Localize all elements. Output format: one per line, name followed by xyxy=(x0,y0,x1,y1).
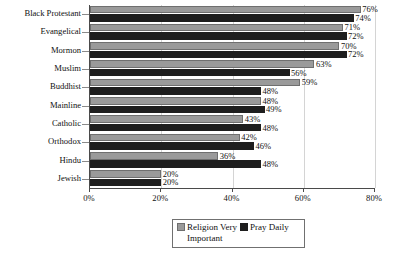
x-axis-label: 60% xyxy=(295,193,311,203)
bar-0 xyxy=(90,97,261,105)
bar-1 xyxy=(90,160,261,168)
gridline xyxy=(375,5,376,188)
bar-value-label: 63% xyxy=(316,60,332,69)
category-tick xyxy=(82,69,89,70)
bar-1 xyxy=(90,14,354,22)
x-axis-tick xyxy=(232,188,233,192)
bar-group: 20%20% xyxy=(90,170,374,188)
bar-value-label: 49% xyxy=(266,105,282,114)
category-tick xyxy=(82,161,89,162)
bar-0 xyxy=(90,42,339,50)
bar-value-label: 72% xyxy=(348,32,364,41)
bar-value-label: 48% xyxy=(263,160,279,169)
x-axis-tick xyxy=(89,188,90,192)
bar-0 xyxy=(90,170,161,178)
category-tick xyxy=(82,51,89,52)
category-label: Jewish xyxy=(0,174,81,183)
bar-1 xyxy=(90,87,261,95)
bar-1 xyxy=(90,124,261,132)
bar-value-label: 72% xyxy=(348,50,364,59)
bar-value-label: 59% xyxy=(302,78,318,87)
legend-entry-pray-daily: Pray Daily xyxy=(240,222,289,233)
x-axis-label: 0% xyxy=(83,193,94,203)
bar-rows: 76%74%71%72%70%72%63%56%59%48%48%49%43%4… xyxy=(90,5,374,188)
bar-1 xyxy=(90,179,161,187)
bar-group: 59%48% xyxy=(90,78,374,96)
category-tick xyxy=(82,87,89,88)
category-tick xyxy=(82,106,89,107)
category-tick xyxy=(82,124,89,125)
bar-group: 71%72% xyxy=(90,23,374,41)
bar-0 xyxy=(90,152,218,160)
category-label: Black Protestant xyxy=(0,9,81,18)
category-label: Evangelical xyxy=(0,27,81,36)
bar-value-label: 43% xyxy=(245,115,261,124)
bar-value-label: 48% xyxy=(263,124,279,133)
bar-value-label: 46% xyxy=(255,142,271,151)
plot-area: 76%74%71%72%70%72%63%56%59%48%48%49%43%4… xyxy=(89,5,374,188)
chart-legend: Religion Very Important Pray Daily xyxy=(172,219,305,248)
bar-1 xyxy=(90,106,265,114)
bar-chart: Black ProtestantEvangelicalMormonMuslimB… xyxy=(0,0,399,255)
legend-swatch-icon-series-0 xyxy=(177,223,185,231)
bar-0 xyxy=(90,24,343,32)
x-axis-label: 20% xyxy=(152,193,168,203)
x-axis-label: 80% xyxy=(366,193,382,203)
bar-value-label: 74% xyxy=(355,14,371,23)
legend-label-series-0-line1: Religion Very xyxy=(187,222,237,233)
bar-group: 63%56% xyxy=(90,60,374,78)
bar-group: 42%46% xyxy=(90,133,374,151)
category-tick xyxy=(82,32,89,33)
bar-group: 76%74% xyxy=(90,5,374,23)
x-axis-label: 40% xyxy=(224,193,240,203)
category-tick xyxy=(82,14,89,15)
bar-1 xyxy=(90,142,254,150)
category-label: Mainline xyxy=(0,101,81,110)
category-label: Buddhist xyxy=(0,82,81,91)
bar-0 xyxy=(90,134,240,142)
legend-label-series-0-line2: Important xyxy=(187,233,237,244)
bar-value-label: 56% xyxy=(291,69,307,78)
category-tick xyxy=(82,142,89,143)
bar-value-label: 20% xyxy=(163,178,179,187)
bar-value-label: 48% xyxy=(263,87,279,96)
bar-value-label: 36% xyxy=(220,152,236,161)
bar-1 xyxy=(90,51,347,59)
category-tick xyxy=(82,179,89,180)
bar-0 xyxy=(90,60,314,68)
bar-0 xyxy=(90,6,361,14)
bar-1 xyxy=(90,32,347,40)
legend-label-series-1-line1: Pray Daily xyxy=(250,222,289,233)
x-axis-tick xyxy=(374,188,375,192)
bar-value-label: 42% xyxy=(241,133,257,142)
category-label: Muslim xyxy=(0,64,81,73)
category-label: Orthodox xyxy=(0,137,81,146)
bar-0 xyxy=(90,115,243,123)
legend-swatch-icon-series-1 xyxy=(240,223,248,231)
legend-entry-religion-very-important: Religion Very Important xyxy=(177,222,237,243)
x-axis-tick xyxy=(303,188,304,192)
bar-group: 70%72% xyxy=(90,42,374,60)
category-axis: Black ProtestantEvangelicalMormonMuslimB… xyxy=(0,5,81,188)
bar-group: 48%49% xyxy=(90,97,374,115)
x-axis-tick xyxy=(160,188,161,192)
bar-1 xyxy=(90,69,290,77)
category-label: Mormon xyxy=(0,46,81,55)
category-label: Catholic xyxy=(0,119,81,128)
category-label: Hindu xyxy=(0,156,81,165)
bar-group: 43%48% xyxy=(90,115,374,133)
bar-group: 36%48% xyxy=(90,151,374,169)
